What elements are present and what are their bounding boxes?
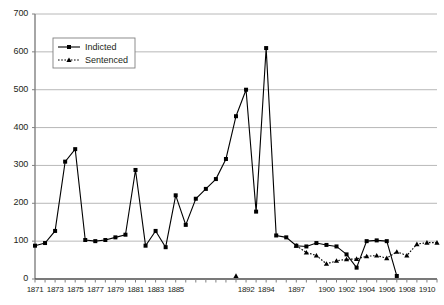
data-point-marker xyxy=(244,88,248,92)
data-point-marker xyxy=(144,244,148,248)
data-point-marker xyxy=(374,253,379,258)
x-tick-label: 1885 xyxy=(162,285,190,294)
data-point-marker xyxy=(355,266,359,270)
data-point-marker xyxy=(365,239,369,243)
x-tick-label: 1897 xyxy=(282,285,310,294)
data-point-marker xyxy=(233,273,238,278)
data-point-marker xyxy=(274,233,278,237)
data-point-marker xyxy=(314,253,319,258)
chart-legend: IndictedSentenced xyxy=(53,38,135,68)
x-tick-label: 1910 xyxy=(413,285,441,294)
y-tick-label: 300 xyxy=(2,159,28,169)
data-point-marker xyxy=(43,241,47,245)
data-point-marker xyxy=(103,238,107,242)
data-point-marker xyxy=(364,254,369,259)
data-point-marker xyxy=(375,238,379,242)
data-point-marker xyxy=(154,229,158,233)
data-point-marker xyxy=(414,242,419,247)
y-tick-label: 400 xyxy=(2,122,28,132)
data-point-marker xyxy=(314,241,318,245)
y-tick-label: 100 xyxy=(2,235,28,245)
data-point-marker xyxy=(384,256,389,261)
chart-container: IndictedSentenced 0100200300400500600700… xyxy=(0,0,444,305)
data-point-marker xyxy=(254,210,258,214)
data-point-marker xyxy=(224,157,228,161)
data-point-marker xyxy=(83,238,87,242)
data-point-marker xyxy=(284,235,288,239)
legend-label-sentenced: Sentenced xyxy=(85,55,128,65)
data-point-marker xyxy=(264,46,268,50)
data-point-marker xyxy=(214,177,218,181)
data-point-marker xyxy=(234,114,238,118)
data-point-marker xyxy=(394,249,399,254)
data-point-marker xyxy=(184,223,188,227)
data-point-marker xyxy=(113,235,117,239)
data-point-marker xyxy=(73,147,77,151)
line-chart: IndictedSentenced xyxy=(0,0,444,305)
data-point-marker xyxy=(67,45,71,49)
series-line xyxy=(35,48,397,276)
data-point-marker xyxy=(134,168,138,172)
data-point-marker xyxy=(123,233,127,237)
data-point-marker xyxy=(53,229,57,233)
data-point-marker xyxy=(385,239,389,243)
data-point-marker xyxy=(304,244,308,248)
data-point-marker xyxy=(345,252,349,256)
y-tick-label: 600 xyxy=(2,46,28,56)
data-point-marker xyxy=(93,239,97,243)
y-tick-label: 700 xyxy=(2,8,28,18)
x-tick-label: 1894 xyxy=(252,285,280,294)
data-point-marker xyxy=(204,187,208,191)
legend-label-indicted: Indicted xyxy=(85,42,117,52)
data-point-marker xyxy=(33,244,37,248)
data-point-marker xyxy=(174,193,178,197)
series-indicted xyxy=(33,46,399,278)
y-tick-label: 200 xyxy=(2,197,28,207)
data-point-marker xyxy=(395,274,399,278)
data-point-marker xyxy=(304,250,309,255)
data-point-marker xyxy=(335,244,339,248)
y-tick-label: 500 xyxy=(2,84,28,94)
data-point-marker xyxy=(164,245,168,249)
y-tick-label: 0 xyxy=(2,273,28,283)
data-point-marker xyxy=(194,197,198,201)
data-point-marker xyxy=(63,160,67,164)
data-point-marker xyxy=(324,243,328,247)
